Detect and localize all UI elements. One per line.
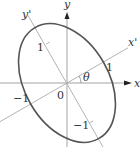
ellipse-diagram: x y x' y' θ 0 1 −1 1 −1 [0, 0, 140, 147]
tick-x-prime-neg-label: −1 [13, 92, 29, 105]
tick-y-prime-neg-label: −1 [73, 119, 89, 132]
tick-x-prime-pos-label: 1 [106, 61, 113, 74]
x-axis-label: x [134, 77, 140, 90]
y-axis-arrow-icon [65, 12, 70, 19]
theta-label: θ [83, 71, 90, 84]
ellipse-curve [0, 7, 135, 147]
y-prime-axis-label: y' [21, 8, 31, 21]
tick-y-prime-pos [46, 42, 50, 44]
x-axis-arrow-icon [124, 81, 132, 86]
y-prime-axis [28, 16, 103, 148]
theta-arc [79, 76, 81, 83]
tick-y-prime-neg [89, 121, 93, 123]
origin-label: 0 [57, 89, 64, 102]
x-prime-axis-label: x' [128, 36, 137, 49]
tick-y-prime-pos-label: 1 [37, 41, 44, 54]
y-axis-label: y [63, 0, 71, 11]
